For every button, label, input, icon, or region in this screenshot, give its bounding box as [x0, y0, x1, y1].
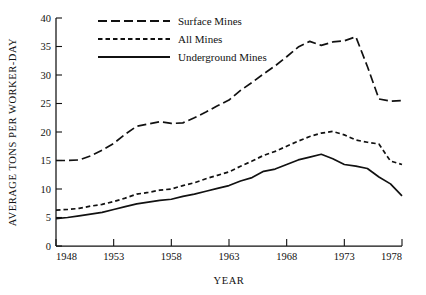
y-axis-title: AVERAGE TONS PER WORKER-DAY [7, 38, 18, 226]
x-axis-title: YEAR [214, 275, 245, 286]
legend-label-surface-mines: Surface Mines [178, 15, 242, 27]
chart-figure: 0510152025303540 19481953195819631968197… [0, 0, 426, 295]
x-tick-label: 1963 [219, 251, 240, 262]
x-tick-label: 1958 [161, 251, 182, 262]
chart-canvas: 0510152025303540 19481953195819631968197… [0, 0, 426, 295]
legend-label-all-mines: All Mines [178, 33, 222, 45]
series-group [56, 37, 402, 219]
series-line-underground-mines [56, 154, 402, 218]
y-tick-label: 30 [41, 70, 52, 81]
x-tick-label: 1968 [276, 251, 297, 262]
x-tick-label: 1973 [334, 251, 355, 262]
y-tick-label: 0 [46, 241, 51, 252]
legend-label-underground-mines: Underground Mines [178, 51, 267, 63]
y-tick-label: 20 [41, 127, 52, 138]
x-tick-label: 1953 [103, 251, 124, 262]
x-axis: 1948195319581963196819731978 [56, 239, 402, 262]
y-tick-group: 0510152025303540 [41, 13, 63, 252]
x-tick-label: 1978 [381, 251, 402, 262]
x-tick-group: 1948195319581963196819731978 [56, 239, 402, 262]
y-tick-label: 5 [46, 212, 51, 223]
y-tick-label: 40 [41, 13, 52, 24]
y-tick-label: 15 [41, 155, 52, 166]
y-axis: 0510152025303540 [41, 13, 63, 252]
y-tick-label: 10 [41, 184, 52, 195]
y-tick-label: 35 [41, 41, 52, 52]
series-line-all-mines [56, 131, 402, 210]
x-tick-label: 1948 [56, 251, 77, 262]
chart-legend: Surface MinesAll MinesUnderground Mines [98, 15, 267, 63]
y-tick-label: 25 [41, 98, 52, 109]
